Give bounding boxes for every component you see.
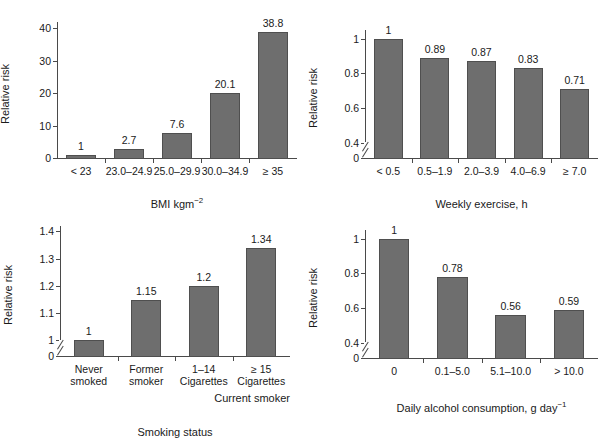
x-tick-exercise-4 [551, 159, 552, 163]
bar-bmi-0 [66, 155, 96, 159]
plot-area-alcohol: 00.40.60.81100.780.1–5.00.565.1–10.00.59… [365, 230, 598, 358]
x-category-label-alcohol-3: > 10.0 [534, 365, 604, 377]
bar-bmi-3 [210, 93, 240, 159]
x-tick-smoking-2 [175, 357, 176, 361]
bar-value-label-exercise-1: 0.89 [412, 44, 459, 55]
bar-value-label-exercise-0: 1 [365, 25, 412, 36]
y-tick-label-alcohol-3: 0.8 [319, 268, 359, 279]
y-tick-bmi-4 [53, 28, 57, 29]
y-tick-label-exercise-0: 0 [319, 153, 359, 164]
x-axis-title-smoking: Smoking status [30, 426, 320, 438]
bar-value-label-bmi-3: 20.1 [201, 79, 249, 90]
plot-area-smoking: 011.11.21.31.41Neversmoked1.15Formersmok… [60, 226, 290, 356]
x-axis-title-alcohol: Daily alcohol consumption, g day−1 [335, 402, 613, 414]
y-axis-title-bmi: Relative risk [0, 64, 11, 124]
y-tick-label-alcohol-1: 0.4 [319, 338, 359, 349]
y-tick-alcohol-2 [361, 308, 365, 309]
bar-alcohol-0 [379, 239, 409, 359]
x-category-label-smoking-3: ≥ 15Cigarettes [227, 363, 297, 387]
y-tick-label-bmi-0: 0 [11, 153, 51, 164]
bar-value-label-alcohol-0: 1 [365, 225, 423, 236]
x-tick-alcohol-2 [482, 359, 483, 363]
y-tick-smoking-3 [56, 286, 60, 287]
bar-value-label-smoking-1: 1.15 [118, 286, 176, 297]
y-tick-smoking-2 [56, 313, 60, 314]
x-category-label-exercise-4: ≥ 7.0 [545, 165, 604, 177]
bar-alcohol-1 [437, 277, 467, 359]
y-axis-line-bmi [57, 22, 58, 158]
bar-exercise-1 [420, 58, 449, 159]
y-tick-label-smoking-3: 1.2 [14, 281, 54, 292]
chart-panel-alcohol: 00.40.60.81100.780.1–5.00.565.1–10.00.59… [307, 214, 613, 432]
x-tick-alcohol-1 [423, 359, 424, 363]
bar-value-label-bmi-2: 7.6 [153, 119, 201, 130]
bar-value-label-exercise-4: 0.71 [551, 75, 598, 86]
x-tick-bmi-2 [153, 159, 154, 163]
bar-smoking-0 [74, 340, 104, 357]
chart-panel-bmi: 0102030401< 232.723.0–24.97.625.0–29.920… [0, 0, 306, 218]
bar-value-label-bmi-4: 38.8 [249, 18, 297, 29]
y-tick-smoking-5 [56, 231, 60, 232]
x-category-label-bmi-4: ≥ 35 [243, 165, 303, 177]
y-tick-label-bmi-1: 10 [11, 121, 51, 132]
x-axis-title-exercise: Weekly exercise, h [335, 198, 613, 210]
bar-value-label-smoking-0: 1 [60, 326, 118, 337]
y-tick-label-smoking-1: 1 [14, 335, 54, 346]
bar-value-label-exercise-2: 0.87 [458, 47, 505, 58]
y-axis-break-smoking [55, 340, 67, 356]
y-tick-label-alcohol-2: 0.6 [319, 303, 359, 314]
x-tick-exercise-1 [412, 159, 413, 163]
bar-exercise-0 [374, 39, 403, 159]
group-annotation-smoking: Current smoker [190, 392, 290, 404]
y-axis-line-exercise [365, 30, 366, 158]
bar-value-label-bmi-1: 2.7 [105, 135, 153, 146]
x-tick-smoking-1 [118, 357, 119, 361]
bar-bmi-4 [258, 32, 288, 159]
x-tick-bmi-1 [105, 159, 106, 163]
bar-value-label-alcohol-3: 0.59 [540, 296, 598, 307]
bar-value-label-smoking-3: 1.34 [233, 234, 291, 245]
y-tick-label-alcohol-0: 0 [319, 353, 359, 364]
x-axis-title-bmi: BMI kgm−2 [27, 198, 327, 210]
y-tick-label-bmi-2: 20 [11, 88, 51, 99]
x-tick-bmi-4 [249, 159, 250, 163]
plot-area-bmi: 0102030401< 232.723.0–24.97.625.0–29.920… [57, 22, 297, 158]
y-tick-exercise-2 [361, 108, 365, 109]
x-tick-exercise-3 [505, 159, 506, 163]
chart-panel-exercise: 00.40.60.811< 0.50.890.5–1.90.872.0–3.90… [307, 0, 613, 218]
bar-value-label-alcohol-1: 0.78 [423, 263, 481, 274]
y-tick-smoking-4 [56, 259, 60, 260]
y-axis-title-exercise: Relative risk [307, 68, 319, 128]
bar-bmi-2 [162, 133, 192, 159]
y-tick-exercise-4 [361, 39, 365, 40]
y-tick-bmi-1 [53, 126, 57, 127]
y-tick-label-bmi-4: 40 [11, 23, 51, 34]
y-tick-exercise-3 [361, 73, 365, 74]
y-tick-bmi-3 [53, 61, 57, 62]
y-tick-alcohol-3 [361, 273, 365, 274]
x-tick-alcohol-3 [540, 359, 541, 363]
bar-bmi-1 [114, 149, 144, 159]
bar-value-label-smoking-2: 1.2 [175, 272, 233, 283]
x-tick-smoking-3 [233, 357, 234, 361]
y-tick-label-exercise-1: 0.4 [319, 138, 359, 149]
y-tick-label-smoking-2: 1.1 [14, 308, 54, 319]
y-tick-label-exercise-2: 0.6 [319, 103, 359, 114]
y-axis-break-exercise [360, 142, 372, 158]
y-tick-label-alcohol-4: 1 [319, 234, 359, 245]
bar-exercise-2 [467, 61, 496, 159]
bar-value-label-alcohol-2: 0.56 [482, 301, 540, 312]
y-axis-title-smoking: Relative risk [2, 265, 14, 325]
bar-alcohol-2 [495, 315, 525, 359]
y-tick-label-exercise-3: 0.8 [319, 68, 359, 79]
bar-smoking-2 [189, 286, 219, 357]
bar-value-label-exercise-3: 0.83 [505, 54, 552, 65]
y-tick-label-smoking-4: 1.3 [14, 254, 54, 265]
bar-exercise-4 [560, 89, 589, 159]
y-axis-line-alcohol [365, 230, 366, 358]
bar-smoking-1 [131, 300, 161, 357]
y-tick-label-smoking-0: 0 [14, 351, 54, 362]
y-axis-title-alcohol: Relative risk [307, 268, 319, 328]
y-tick-bmi-2 [53, 93, 57, 94]
